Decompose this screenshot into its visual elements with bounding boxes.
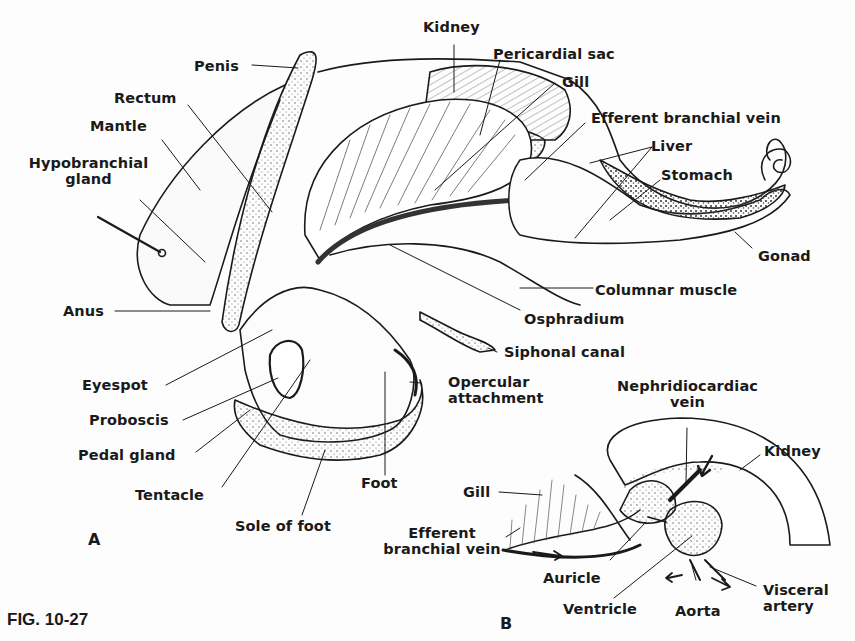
label-eyespot: Eyespot [82,377,148,393]
label-hypobranchial-gland: Hypobranchial gland [16,155,161,187]
label-efferent-branchial-vein: Efferent branchial vein [591,110,781,126]
efferent-branchial-vein-b [503,545,640,557]
label-tentacle: Tentacle [135,487,204,503]
label-pedal-gland: Pedal gland [78,447,176,463]
figure-canvas: Kidney Penis Pericardial sac Gill Rectum… [0,0,855,641]
label-ventricle: Ventricle [563,601,637,617]
label-penis: Penis [194,58,239,74]
panel-a-marker: A [88,530,100,549]
columnar-muscle [330,244,580,305]
label-rectum: Rectum [114,90,177,106]
label-visceral-artery: Visceral artery [763,582,829,614]
flow-arrow [666,573,682,582]
label-aorta: Aorta [675,603,721,619]
label-sole-of-foot: Sole of foot [235,518,331,534]
label-pericardial-sac: Pericardial sac [493,46,615,62]
label-mantle: Mantle [90,118,147,134]
label-efferent-branchial-vein-b: Efferent branchial vein [371,525,513,557]
siphonal-canal [420,312,495,352]
label-gill: Gill [562,74,589,90]
label-gonad: Gonad [758,248,811,264]
gill-a [305,99,532,260]
label-stomach: Stomach [661,167,733,183]
label-kidney: Kidney [423,19,480,35]
label-proboscis: Proboscis [89,412,169,428]
label-nephridiocardiac-vein: Nephridiocardiac vein [605,378,770,410]
label-auricle: Auricle [543,570,601,586]
label-kidney-b: Kidney [764,443,821,459]
label-osphradium: Osphradium [524,311,624,327]
label-siphonal-canal: Siphonal canal [504,344,625,360]
label-liver: Liver [651,138,692,154]
flow-arrow [712,578,730,590]
label-columnar-muscle: Columnar muscle [595,282,737,298]
ventricle [665,502,722,556]
label-anus: Anus [63,303,104,319]
nephridiocardiac-vessel [670,470,700,500]
panel-b-marker: B [500,614,512,633]
label-opercular-attachment: Opercular attachment [448,374,544,406]
figure-number: FIG. 10-27 [7,610,88,630]
label-foot: Foot [361,475,398,491]
label-gill-b: Gill [463,484,490,500]
